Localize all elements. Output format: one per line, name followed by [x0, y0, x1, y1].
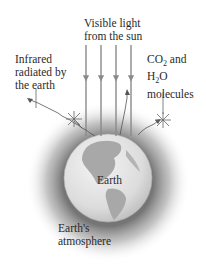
label-atmosphere: Earth's atmosphere: [58, 222, 111, 248]
label-molecules: CO2 and H2O molecules: [147, 53, 194, 101]
molecule-star-right: [155, 112, 171, 128]
molecule-star-left: [66, 111, 82, 127]
label-infrared: Infrared radiated by the earth: [15, 53, 66, 92]
label-visible-light: Visible light from the sun: [84, 17, 142, 43]
label-earth: Earth: [97, 174, 122, 187]
